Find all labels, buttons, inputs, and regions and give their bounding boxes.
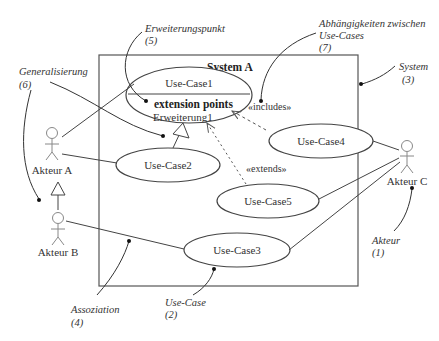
extension-point-label: Erweiterung1 [153, 111, 213, 123]
svg-text:Abhängigkeiten zwischen: Abhängigkeiten zwischen [318, 18, 425, 29]
actor-b[interactable] [51, 213, 65, 246]
use-case-diagram: System A Use-Case1 extension points Erwe… [0, 0, 439, 341]
annotation-assoziation: Assoziation (4) [70, 239, 131, 329]
use-case-1-label: Use-Case1 [165, 77, 213, 89]
use-case-5-label: Use-Case5 [244, 195, 292, 207]
generalization-actor-b-a [51, 182, 65, 210]
use-case-3-label: Use-Case3 [213, 244, 261, 256]
actor-b-label: Akteur B [38, 246, 79, 258]
svg-text:Erweiterungspunkt: Erweiterungspunkt [144, 23, 226, 34]
extends-label: «extends» [246, 163, 287, 174]
includes-label: «includes» [248, 101, 291, 112]
actor-c[interactable] [400, 141, 414, 174]
generalization-uc2-uc1 [173, 123, 189, 148]
extends-dependency: «extends» [207, 123, 287, 184]
actor-a[interactable] [45, 128, 59, 161]
svg-text:(3): (3) [402, 74, 415, 86]
use-case-3[interactable]: Use-Case3 [184, 233, 290, 267]
annotation-system: System (3) [359, 61, 429, 86]
actor-a-label: Akteur A [32, 164, 73, 176]
svg-text:(6): (6) [19, 79, 32, 91]
svg-text:System: System [399, 61, 429, 72]
use-case-1[interactable]: Use-Case1 extension points Erweiterung1 [126, 67, 252, 123]
svg-text:(7): (7) [319, 42, 332, 54]
svg-text:Use-Cases: Use-Cases [319, 30, 364, 41]
annotation-akteur: Akteur (1) [371, 186, 414, 259]
svg-text:Use-Case: Use-Case [165, 297, 206, 308]
svg-text:Akteur: Akteur [371, 235, 401, 246]
svg-text:Assoziation: Assoziation [70, 304, 119, 315]
svg-text:(1): (1) [372, 247, 385, 259]
use-case-4[interactable]: Use-Case4 [269, 124, 373, 158]
actor-c-label: Akteur C [387, 175, 428, 187]
use-case-2-label: Use-Case2 [144, 159, 192, 171]
svg-text:Generalisierung: Generalisierung [19, 66, 88, 77]
use-case-2[interactable]: Use-Case2 [116, 148, 220, 182]
annotation-use-case: Use-Case (2) [165, 267, 216, 321]
use-case-5[interactable]: Use-Case5 [217, 184, 319, 218]
svg-text:(5): (5) [145, 35, 158, 47]
extension-points-header: extension points [154, 98, 233, 111]
svg-text:(2): (2) [165, 309, 178, 321]
use-case-4-label: Use-Case4 [297, 135, 345, 147]
svg-text:(4): (4) [71, 317, 84, 329]
